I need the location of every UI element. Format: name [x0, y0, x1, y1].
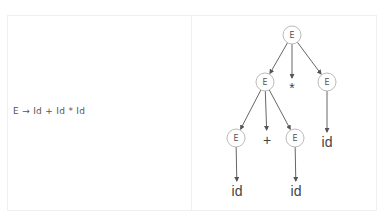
terminal-node: id — [291, 183, 302, 199]
svg-text:+: + — [263, 132, 271, 148]
tree-edge — [269, 90, 290, 129]
tree-edge — [297, 42, 321, 74]
parse-tree: EE*EE+Eididid — [0, 0, 385, 217]
tree-edge — [270, 43, 288, 74]
svg-text:E: E — [292, 134, 297, 143]
nonterminal-node: E — [227, 129, 245, 147]
tree-edge — [236, 147, 237, 181]
tree-edge — [265, 91, 266, 130]
nonterminal-node: E — [286, 129, 304, 147]
terminal-node: id — [232, 183, 243, 199]
svg-text:E: E — [233, 134, 238, 143]
svg-text:id: id — [291, 183, 302, 199]
svg-text:E: E — [324, 78, 329, 87]
terminal-node: * — [289, 80, 295, 96]
terminal-node: id — [322, 134, 333, 150]
tree-edge — [295, 147, 296, 181]
svg-text:E: E — [262, 78, 267, 87]
terminal-node: + — [263, 132, 271, 148]
nonterminal-node: E — [318, 73, 336, 91]
nonterminal-node: E — [283, 26, 301, 44]
svg-text:*: * — [289, 80, 295, 96]
svg-text:E: E — [289, 31, 294, 40]
svg-text:id: id — [322, 134, 333, 150]
tree-edge — [241, 90, 261, 129]
svg-text:id: id — [232, 183, 243, 199]
nonterminal-node: E — [256, 73, 274, 91]
